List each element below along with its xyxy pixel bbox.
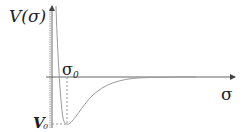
x-axis-label: σ — [221, 84, 233, 104]
svg-text:0: 0 — [73, 70, 79, 80]
potential-curve — [56, 6, 196, 124]
y-axis — [50, 6, 52, 128]
y-axis-label: V(σ) — [9, 6, 46, 26]
svg-text:0: 0 — [43, 122, 48, 131]
potential-diagram: V(σ) σ 0 V 0 σ — [0, 0, 246, 132]
equilibrium-label: σ 0 — [62, 60, 79, 80]
well-depth-label: V 0 — [33, 114, 48, 132]
svg-text:σ: σ — [62, 60, 73, 79]
